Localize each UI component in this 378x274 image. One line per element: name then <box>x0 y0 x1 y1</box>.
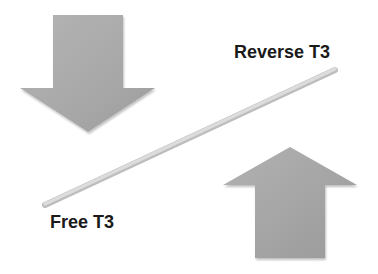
up-arrow-icon <box>223 147 357 258</box>
down-arrow-icon <box>20 15 155 132</box>
free-t3-label: Free T3 <box>50 213 114 231</box>
reverse-t3-label: Reverse T3 <box>234 43 330 61</box>
